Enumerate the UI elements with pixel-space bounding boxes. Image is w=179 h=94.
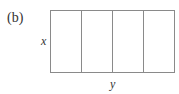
width-label: y (110, 77, 115, 92)
rectangle-section-3 (113, 11, 144, 72)
rectangle-section-1 (51, 11, 82, 72)
height-label: x (41, 34, 46, 49)
divided-rectangle (50, 10, 175, 73)
rectangle-section-4 (144, 11, 174, 72)
rectangle-section-2 (82, 11, 113, 72)
panel-label: (b) (7, 10, 23, 26)
